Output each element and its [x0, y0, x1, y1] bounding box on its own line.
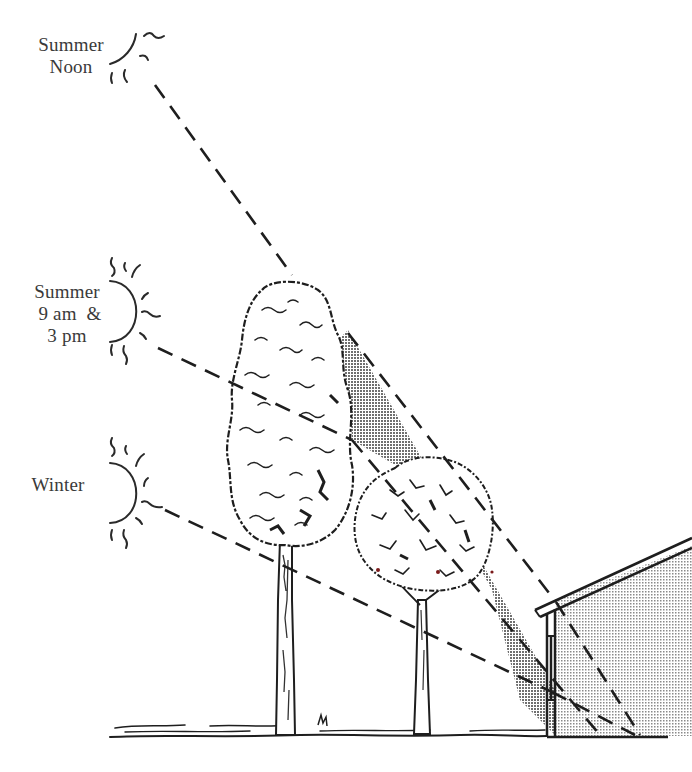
label-line: Noon	[26, 56, 116, 78]
label-line: Summer	[26, 34, 116, 56]
label-line: Winter	[18, 474, 98, 496]
short-tree	[355, 457, 494, 734]
label-summer-noon: Summer Noon	[26, 34, 116, 78]
sun-icon-summer-9am-3pm	[110, 258, 160, 364]
label-winter: Winter	[18, 474, 98, 496]
label-summer-9am-3pm: Summer 9 am & 3 pm	[22, 281, 112, 347]
label-line: 9 am &	[22, 303, 112, 325]
ray-summer-noon	[155, 85, 292, 275]
label-line: 3 pm	[22, 325, 112, 347]
sun-icon-summer-noon	[110, 33, 164, 83]
label-line: Summer	[22, 281, 112, 303]
sun-angle-diagram	[0, 0, 692, 772]
tall-tree	[227, 282, 353, 735]
ground	[110, 725, 547, 737]
house	[535, 538, 692, 737]
sun-icon-winter	[110, 438, 162, 548]
